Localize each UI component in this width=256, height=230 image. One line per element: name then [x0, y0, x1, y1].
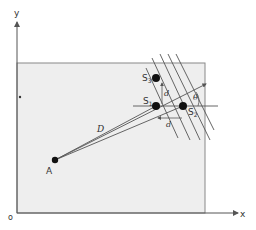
point-a: [52, 157, 58, 163]
origin-label: o: [8, 213, 13, 222]
geometry-diagram: y x o A S3 S1 S2 D d d θ: [0, 0, 256, 230]
point-s2: [179, 102, 187, 110]
point-a-label: A: [46, 166, 53, 176]
horizontal-d-label: d: [166, 120, 171, 129]
diagram-canvas: y x o A S3 S1 S2 D d d θ: [0, 0, 256, 230]
theta-label: θ: [193, 93, 198, 102]
shaded-region: [17, 63, 205, 213]
small-dot-marker: [19, 96, 21, 98]
distance-d-label: D: [96, 124, 104, 134]
y-axis-label: y: [14, 8, 20, 18]
vertical-d-label: d: [164, 89, 169, 98]
x-axis-label: x: [240, 209, 246, 219]
point-s1: [152, 102, 160, 110]
point-s3: [152, 74, 160, 82]
